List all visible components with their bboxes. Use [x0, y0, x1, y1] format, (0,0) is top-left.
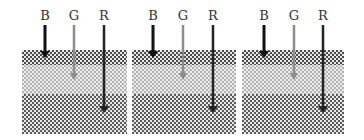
- arrow-blue-icon: [148, 25, 158, 58]
- panel-2: B G R: [132, 0, 236, 140]
- arrow-green-icon: [70, 25, 78, 80]
- arrow-blue-icon: [40, 25, 50, 58]
- arrows-panel-2: [132, 0, 236, 140]
- arrow-green-icon: [290, 25, 298, 80]
- arrow-red-icon: [318, 25, 328, 113]
- arrows-panel-3: [242, 0, 344, 140]
- arrow-blue-icon: [259, 25, 269, 58]
- panel-3: B G R: [242, 0, 344, 140]
- arrow-green-icon: [179, 25, 187, 80]
- arrow-red-icon: [99, 25, 109, 113]
- arrow-red-icon: [208, 25, 218, 113]
- arrows-panel-1: [22, 0, 127, 140]
- panel-1: B G R: [22, 0, 127, 140]
